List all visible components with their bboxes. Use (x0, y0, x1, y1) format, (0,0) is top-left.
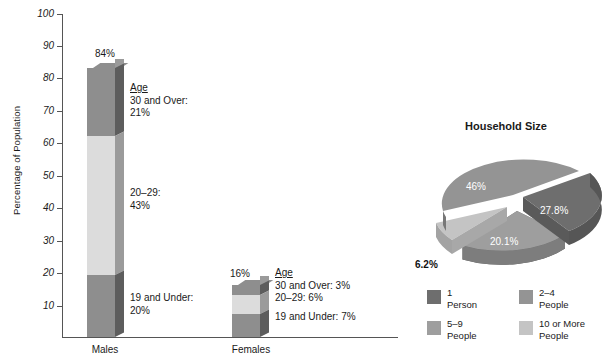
bar-females-segment-19-and-under[interactable] (232, 314, 260, 337)
y-tick-80: 80 (20, 73, 54, 83)
pie-label-20-1: 20.1% (490, 236, 518, 247)
annotation-females: Age 30 and Over: 3% 20–29: 6% 19 and Und… (275, 267, 356, 323)
y-tick-30: 30 (20, 236, 54, 246)
y-tick-10: 10 (20, 301, 54, 311)
y-tick-100: 100 (20, 9, 54, 19)
annotation-males-line5: 19 and Under: (130, 292, 193, 305)
annotation-females-heading: Age (275, 267, 293, 278)
annotation-males-heading: Age (130, 82, 148, 93)
annotation-males-20-29: 20–29: 43% (130, 187, 161, 212)
bar-males[interactable] (87, 68, 124, 337)
pie-legend: 1 Person 2–4 People 5–9 People (427, 289, 607, 351)
bar-males-segment-19-and-under[interactable] (87, 275, 115, 337)
annotation-males-line4: 43% (130, 200, 161, 213)
bar-males-total-label: 84% (80, 48, 130, 59)
legend-swatch-2-4-people (519, 290, 533, 304)
legend-swatch-10-or-more-people (519, 321, 533, 335)
pie-graphic: 46% 27.8% 20.1% 6.2% (418, 133, 608, 278)
bar-males-segment-20-29-side (115, 132, 124, 275)
bar-females[interactable] (232, 285, 269, 337)
annotation-males-line6: 20% (130, 305, 193, 318)
legend-label-1-person: 1 Person (447, 287, 477, 310)
bar-males-segment-30-and-over-side (115, 64, 124, 136)
legend-label-10-or-more-people: 10 or More People (539, 318, 585, 341)
annotation-females-line1: 30 and Over: 3% (275, 280, 356, 293)
bar-males-segment-30-and-over[interactable] (87, 68, 115, 136)
legend-label-5-9-people: 5–9 People (447, 318, 477, 341)
y-tick-20: 20 (20, 268, 54, 278)
y-tick-40: 40 (20, 203, 54, 213)
annotation-males-line3: 20–29: (130, 187, 161, 200)
bar-males-segment-20-29[interactable] (87, 136, 115, 275)
y-tick-90: 90 (20, 41, 54, 51)
annotation-females-line2: 20–29: 6% (275, 292, 356, 305)
pie-chart-title: Household Size (465, 120, 547, 132)
y-tick-60: 60 (20, 138, 54, 148)
bar-females-segment-30-and-over[interactable] (232, 285, 260, 295)
annotation-males-19-under: 19 and Under: 20% (130, 292, 193, 317)
y-tick-50: 50 (20, 171, 54, 181)
annotation-males-line1: 30 and Over: (130, 95, 188, 108)
x-label-females: Females (211, 344, 291, 355)
pie-svg (418, 133, 608, 278)
annotation-males-line2: 21% (130, 107, 188, 120)
bar-females-segment-19-and-under-side (260, 310, 269, 337)
x-axis-line (62, 337, 398, 338)
bar-females-total-label: 16% (215, 268, 265, 279)
y-axis-line (62, 14, 63, 338)
legend-label-2-4-people: 2–4 People (539, 287, 569, 310)
x-label-males: Males (65, 344, 145, 355)
y-tick-70: 70 (20, 106, 54, 116)
bar-males-segment-19-and-under-side (115, 271, 124, 337)
bar-females-segment-20-29[interactable] (232, 295, 260, 314)
chart-canvas: Percentage of Population 100 90 80 70 60… (0, 0, 608, 362)
y-axis-ticks: 100 90 80 70 60 50 40 30 20 10 (14, 0, 54, 362)
annotation-females-line3: 19 and Under: 7% (275, 311, 356, 324)
annotation-males: Age 30 and Over: 21% (130, 82, 188, 120)
legend-swatch-5-9-people (427, 321, 441, 335)
legend-swatch-1-person (427, 290, 441, 304)
pie-label-46: 46% (466, 181, 486, 192)
pie-label-27-8: 27.8% (540, 205, 568, 216)
pie-label-6-2: 6.2% (415, 259, 438, 270)
